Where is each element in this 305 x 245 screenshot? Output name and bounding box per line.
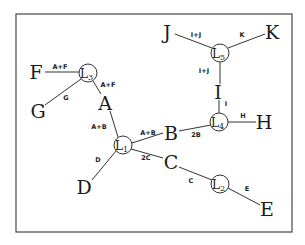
edge-label-L1-C: 2C — [141, 154, 151, 162]
hub-L2: L2 — [211, 175, 229, 193]
node-F: F — [29, 61, 42, 83]
diagram-canvas: A+FGA+FA+BA+B2CD2BHII+JI+JKCE ABCDEFGHIJ… — [0, 0, 305, 245]
node-G: G — [30, 100, 45, 122]
edge-label-F-L3: A+F — [53, 63, 68, 71]
hub-L5: L5 — [211, 44, 229, 62]
edge-label-I-L4: I — [225, 100, 227, 108]
edge-label-L3-A: A+F — [101, 81, 116, 89]
edge-label-G-L3: G — [63, 94, 68, 102]
edge-K-L5 — [228, 34, 265, 48]
node-A: A — [97, 92, 112, 114]
edge-label-C-L2: C — [189, 177, 194, 185]
edge-label-L1-B: A+B — [140, 129, 155, 137]
node-B: B — [164, 122, 178, 144]
hub-L1: L1 — [114, 136, 132, 154]
nodes-layer: ABCDEFGHIJK — [29, 21, 279, 220]
edge-label-L2-E: E — [245, 185, 249, 193]
node-D: D — [76, 176, 91, 198]
diagram-frame — [16, 14, 292, 232]
edge-A-L1 — [110, 111, 118, 137]
hub-L3: L3 — [79, 64, 97, 82]
node-C: C — [164, 151, 179, 173]
node-H: H — [256, 111, 273, 133]
edge-C-L2 — [179, 167, 212, 180]
node-E: E — [260, 198, 274, 220]
node-K: K — [265, 21, 280, 43]
edge-label-L4-H: H — [240, 112, 245, 120]
edge-label-L1-D: D — [95, 156, 101, 164]
edge-label-A-L1: A+B — [91, 123, 106, 131]
edge-label-B-L4: 2B — [191, 131, 201, 139]
edge-label-L5-I: I+J — [199, 67, 209, 75]
edge-label-J-L5: I+J — [191, 31, 201, 39]
node-I: I — [214, 81, 222, 103]
hub-L4: L4 — [210, 113, 228, 131]
node-J: J — [161, 21, 171, 43]
edge-label-K-L5: K — [239, 31, 245, 39]
